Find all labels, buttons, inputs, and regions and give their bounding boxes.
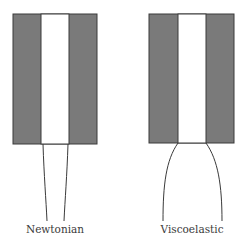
viscoelastic-jet-right-edge [206, 143, 222, 221]
newtonian-label: Newtonian [26, 223, 84, 235]
newtonian-panel [13, 14, 97, 221]
newtonian-jet-left-edge [43, 144, 47, 221]
viscoelastic-die-channel [178, 14, 206, 143]
viscoelastic-jet-left-edge [163, 143, 178, 221]
newtonian-die-channel [41, 14, 69, 144]
die-swell-diagram [0, 0, 244, 247]
newtonian-jet-right-edge [64, 144, 68, 221]
viscoelastic-panel [149, 14, 234, 221]
viscoelastic-label: Viscoelastic [160, 223, 223, 235]
